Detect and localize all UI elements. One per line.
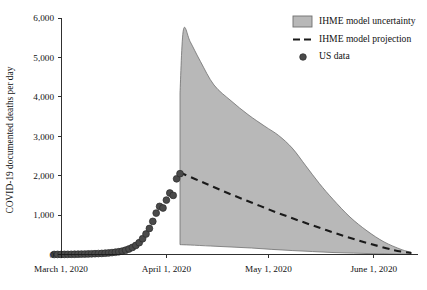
us-data-point: [163, 197, 170, 204]
x-tick-label: June 1, 2020: [350, 264, 397, 274]
x-tick-label: March 1, 2020: [34, 264, 88, 274]
covid-deaths-chart: 01,0002,0003,0004,0005,0006,000 March 1,…: [0, 0, 427, 290]
y-axis-ticks: 01,0002,0003,0004,0005,0006,000: [33, 13, 61, 259]
y-tick-label: 3,000: [33, 132, 54, 142]
x-tick-label: May 1, 2020: [245, 264, 292, 274]
y-tick-label: 1,000: [33, 210, 54, 220]
y-tick-label: 5,000: [33, 53, 54, 63]
y-axis-label: COVID-19 documented deaths per day: [5, 66, 15, 213]
us-data-point: [170, 192, 177, 199]
legend-label-us-data: US data: [319, 50, 350, 61]
us-data-points: [51, 170, 184, 258]
plot-area: [51, 27, 411, 258]
chart-legend: IHME model uncertainty IHME model projec…: [293, 15, 416, 61]
us-data-point: [149, 218, 156, 225]
y-tick-label: 6,000: [33, 13, 54, 23]
legend-label-uncertainty: IHME model uncertainty: [319, 15, 416, 26]
y-tick-label: 2,000: [33, 171, 54, 181]
y-tick-label: 0: [49, 250, 54, 260]
legend-swatch-uncertainty: [293, 16, 312, 27]
y-tick-label: 4,000: [33, 92, 54, 102]
legend-label-projection: IHME model projection: [319, 33, 411, 44]
chart-figure: 01,0002,0003,0004,0005,0006,000 March 1,…: [0, 0, 427, 290]
us-data-point: [146, 225, 153, 232]
x-tick-label: April 1, 2020: [142, 264, 192, 274]
us-data-point: [153, 210, 160, 217]
us-data-point: [177, 170, 184, 177]
us-data-point: [160, 205, 167, 212]
legend-dot-us-data: [300, 54, 307, 61]
